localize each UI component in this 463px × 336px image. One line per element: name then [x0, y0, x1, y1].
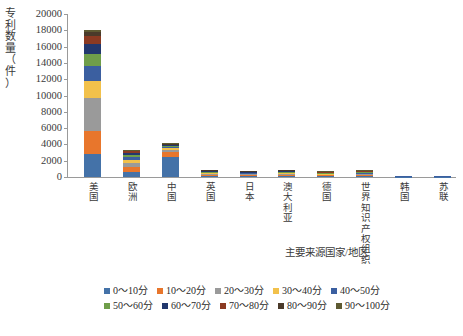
bar-column[interactable] — [395, 176, 412, 177]
legend-label: 60～70分 — [171, 301, 211, 311]
legend-color-swatch — [331, 288, 337, 294]
chart-legend: 0～10分10～20分20～30分30～40分40～50分50～60分60～70… — [104, 286, 454, 316]
bar-column[interactable] — [434, 176, 451, 177]
legend-item[interactable]: 30～40分 — [273, 286, 322, 296]
legend-label: 80～90分 — [287, 301, 327, 311]
legend-item[interactable]: 50～60分 — [104, 301, 153, 311]
bar-column[interactable] — [162, 143, 179, 177]
y-axis-tick-label: 0 — [16, 172, 62, 182]
y-axis-tickmark — [64, 63, 67, 64]
bar-segment — [84, 81, 101, 98]
x-axis-category-label: 日本 — [244, 182, 254, 203]
bar-column[interactable] — [317, 171, 334, 177]
legend-label: 40～50分 — [340, 286, 380, 296]
x-axis-category-label: 韩国 — [399, 182, 409, 203]
bar-column[interactable] — [123, 150, 140, 177]
x-axis-category-label: 英国 — [205, 182, 215, 203]
legend-item[interactable]: 20～30分 — [215, 286, 264, 296]
y-axis-tick-label: 12000 — [16, 74, 62, 84]
x-axis-line — [67, 177, 456, 178]
legend-label: 20～30分 — [224, 286, 264, 296]
legend-label: 30～40分 — [282, 286, 322, 296]
y-axis-tick-label: 14000 — [16, 58, 62, 68]
bar-segment — [84, 36, 101, 44]
bar-segment — [240, 176, 257, 177]
bar-column[interactable] — [356, 170, 373, 177]
legend-color-swatch — [104, 303, 110, 309]
y-axis-tickmark — [64, 112, 67, 113]
bar-segment — [278, 176, 295, 177]
x-axis-category-label: 德国 — [321, 182, 331, 203]
bar-segment — [84, 131, 101, 155]
x-axis-category-label: 美国 — [88, 182, 98, 203]
y-axis-tick-label: 8000 — [16, 107, 62, 117]
legend-color-swatch — [157, 288, 163, 294]
y-axis-tickmark — [64, 128, 67, 129]
y-axis-tick-labels: 2000018000160001400012000100008000600040… — [16, 0, 62, 190]
y-axis-tickmark — [64, 47, 67, 48]
y-axis-tick-label: 10000 — [16, 91, 62, 101]
x-axis-category-label: 欧洲 — [127, 182, 137, 203]
y-axis-tickmark — [64, 14, 67, 15]
bar-column[interactable] — [84, 30, 101, 177]
bar-segment — [162, 157, 179, 177]
bar-segment — [123, 172, 140, 177]
x-axis-category-label: 中国 — [166, 182, 176, 203]
bar-segment — [84, 54, 101, 66]
bar-column[interactable] — [278, 170, 295, 177]
legend-item[interactable]: 90～100分 — [336, 301, 390, 311]
x-axis-title: 主要来源国家/地区 — [285, 244, 368, 259]
bar-segment — [84, 98, 101, 131]
bar-column[interactable] — [240, 171, 257, 177]
bar-segment — [201, 176, 218, 177]
bar-segment — [84, 66, 101, 81]
legend-item[interactable]: 70～80分 — [220, 301, 269, 311]
y-axis-tickmark — [64, 144, 67, 145]
bar-segment — [84, 154, 101, 177]
y-axis-tick-label: 6000 — [16, 123, 62, 133]
legend-label: 10～20分 — [166, 286, 206, 296]
y-axis-tickmark — [64, 161, 67, 162]
y-axis-tick-label: 18000 — [16, 25, 62, 35]
y-axis-tickmark — [64, 79, 67, 80]
legend-item[interactable]: 80～90分 — [278, 301, 327, 311]
patent-source-stacked-bar-chart: 专利数量（件） 20000180001600014000120001000080… — [0, 0, 463, 336]
y-axis-tickmark — [64, 96, 67, 97]
legend-color-swatch — [273, 288, 279, 294]
bar-column[interactable] — [201, 170, 218, 177]
legend-color-swatch — [215, 288, 221, 294]
legend-row: 0～10分10～20分20～30分30～40分40～50分 — [104, 286, 454, 296]
plot-area — [67, 14, 456, 178]
legend-color-swatch — [278, 303, 284, 309]
legend-item[interactable]: 40～50分 — [331, 286, 380, 296]
y-axis-tick-label: 16000 — [16, 42, 62, 52]
y-axis-tickmark — [64, 177, 67, 178]
bar-segment — [84, 44, 101, 54]
y-axis-tick-label: 20000 — [16, 9, 62, 19]
legend-item[interactable]: 0～10分 — [104, 286, 148, 296]
legend-label: 50～60分 — [113, 301, 153, 311]
bar-segment — [317, 176, 334, 177]
y-axis-line — [67, 14, 68, 178]
y-axis-tickmark — [64, 30, 67, 31]
legend-color-swatch — [104, 288, 110, 294]
x-axis-category-label: 澳大利亚 — [282, 182, 292, 224]
y-axis-tick-label: 4000 — [16, 139, 62, 149]
y-axis-tick-label: 2000 — [16, 156, 62, 166]
x-axis-category-label: 苏联 — [438, 182, 448, 203]
legend-item[interactable]: 60～70分 — [162, 301, 211, 311]
legend-label: 0～10分 — [113, 286, 148, 296]
legend-item[interactable]: 10～20分 — [157, 286, 206, 296]
legend-color-swatch — [220, 303, 226, 309]
legend-label: 70～80分 — [229, 301, 269, 311]
legend-color-swatch — [336, 303, 342, 309]
bar-segment — [356, 176, 373, 177]
legend-label: 90～100分 — [345, 301, 390, 311]
legend-row: 50～60分60～70分70～80分80～90分90～100分 — [104, 301, 454, 311]
legend-color-swatch — [162, 303, 168, 309]
